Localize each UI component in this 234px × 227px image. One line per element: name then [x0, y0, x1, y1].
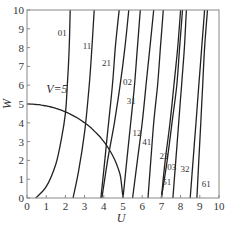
y-tick-label: 8: [19, 42, 25, 54]
x-tick-label: 1: [43, 200, 49, 212]
x-tick-label: 0: [24, 200, 30, 212]
x-tick-label: 4: [101, 200, 107, 212]
curve-21: [101, 10, 119, 198]
curve-label: 32: [181, 164, 190, 174]
curve-32: [190, 10, 204, 198]
curve-label: 11: [83, 41, 92, 51]
y-tick-label: 6: [19, 79, 25, 91]
y-axis-label: W: [0, 98, 14, 109]
curve-label: 12: [133, 128, 142, 138]
curve-label: 02: [123, 77, 132, 87]
v-annotation: V=5: [46, 82, 67, 96]
curve-label: 21: [102, 58, 111, 68]
x-axis-label: U: [117, 211, 127, 225]
x-tick-label: 6: [139, 200, 145, 212]
y-tick-label: 7: [19, 60, 25, 72]
plot-frame: [27, 10, 219, 198]
y-tick-label: 1: [19, 173, 25, 185]
y-tick-label: 3: [19, 136, 25, 148]
x-tick-label: 3: [82, 200, 88, 212]
y-tick-label: 10: [13, 4, 25, 16]
curve-label: 61: [202, 179, 211, 189]
dispersion-chart: 011121023112412203513261V=5 012345678910…: [0, 0, 234, 227]
curve-label: 41: [142, 137, 151, 147]
curve-02: [102, 10, 129, 198]
axes: 012345678910012345678910: [13, 4, 225, 212]
x-tick-label: 10: [214, 200, 226, 212]
curve-label: 51: [162, 177, 171, 187]
x-tick-label: 9: [197, 200, 203, 212]
y-tick-label: 5: [19, 98, 25, 110]
plot-area: 011121023112412203513261V=5: [27, 10, 211, 198]
x-tick-label: 2: [63, 200, 69, 212]
y-tick-label: 9: [19, 23, 25, 35]
x-tick-label: 8: [178, 200, 184, 212]
x-tick-label: 7: [159, 200, 165, 212]
y-tick-label: 2: [19, 154, 25, 166]
curve-label: 31: [127, 96, 136, 106]
y-tick-label: 0: [19, 192, 25, 204]
curve-label: 01: [58, 28, 67, 38]
curve-11: [73, 10, 94, 198]
y-tick-label: 4: [19, 117, 25, 129]
